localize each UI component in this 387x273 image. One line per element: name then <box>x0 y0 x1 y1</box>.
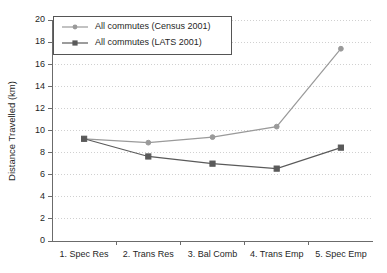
line-chart: 02468101214161820 1. Spec Res2. Trans Re… <box>0 0 387 273</box>
y-tick-label: 10 <box>35 125 45 135</box>
legend-label-0: All commutes (Census 2001) <box>95 21 211 31</box>
y-tick-label: 2 <box>40 213 45 223</box>
x-tick-label: 4. Trans Emp <box>250 249 304 259</box>
y-tick-label: 8 <box>40 147 45 157</box>
legend-label-1: All commutes (LATS 2001) <box>95 37 202 47</box>
y-tick-label: 20 <box>35 14 45 24</box>
y-axis-tick-labels: 02468101214161820 <box>35 14 45 245</box>
data-point-marker[interactable] <box>338 145 343 150</box>
y-tick-label: 18 <box>35 36 45 46</box>
x-tick-label: 5. Spec Emp <box>315 249 367 259</box>
data-point-marker[interactable] <box>146 154 151 159</box>
data-point-marker[interactable] <box>274 124 279 129</box>
y-tick-label: 4 <box>40 191 45 201</box>
chart-legend: All commutes (Census 2001)All commutes (… <box>53 16 231 54</box>
x-axis-ticks-group <box>116 241 309 245</box>
y-tick-label: 6 <box>40 169 45 179</box>
legend-marker-square <box>72 40 77 45</box>
x-tick-label: 1. Spec Res <box>60 249 110 259</box>
data-point-marker[interactable] <box>339 46 344 51</box>
data-point-marker[interactable] <box>210 161 215 166</box>
y-tick-label: 14 <box>35 81 45 91</box>
chart-container: 02468101214161820 1. Spec Res2. Trans Re… <box>0 0 387 273</box>
y-tick-label: 12 <box>35 103 45 113</box>
x-tick-label: 2. Trans Res <box>123 249 175 259</box>
x-tick-label: 3. Bal Comb <box>188 249 238 259</box>
series-line-0 <box>84 49 341 143</box>
y-tick-label: 16 <box>35 59 45 69</box>
y-tick-label: 0 <box>40 235 45 245</box>
legend-marker-circle <box>73 25 78 30</box>
y-axis-ticks-group <box>48 20 52 241</box>
y-axis-title: Distance Travelled (km) <box>6 81 17 181</box>
data-point-marker[interactable] <box>82 136 87 141</box>
data-point-marker[interactable] <box>274 166 279 171</box>
data-point-marker[interactable] <box>146 140 151 145</box>
data-point-marker[interactable] <box>210 135 215 140</box>
x-axis-tick-labels: 1. Spec Res2. Trans Res3. Bal Comb4. Tra… <box>60 249 367 259</box>
